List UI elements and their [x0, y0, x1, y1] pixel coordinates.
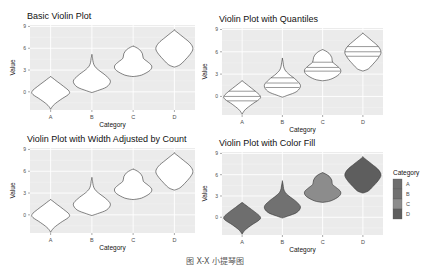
x-axis-label: Category — [99, 244, 126, 252]
legend-swatch-C — [393, 199, 402, 209]
panel-basic-violin: Basic Violin Plot0369ABCDCategoryValue — [9, 11, 195, 129]
y-tick-label: 3 — [215, 71, 218, 77]
x-tick-label: B — [281, 239, 285, 245]
legend-label: B — [406, 191, 410, 197]
y-tick-label: 3 — [215, 193, 218, 199]
x-tick-label: D — [361, 239, 365, 245]
violin-figure: Basic Violin Plot0369ABCDCategoryValue V… — [0, 0, 430, 268]
legend-swatch-D — [393, 209, 402, 219]
x-tick-label: D — [172, 114, 176, 120]
figure-caption: 图 X-X 小提琴图 — [0, 255, 430, 266]
x-axis-label: Category — [289, 126, 316, 134]
panel-title: Violin Plot with Quantiles — [219, 14, 318, 24]
y-tick-label: 9 — [215, 26, 218, 32]
y-tick-label: 6 — [215, 49, 218, 55]
panel-title: Violin Plot with Width Adjusted by Count — [27, 134, 187, 144]
x-tick-label: B — [281, 119, 285, 125]
legend-label: A — [406, 181, 410, 187]
x-tick-label: C — [131, 237, 135, 243]
y-axis-label: Value — [9, 182, 16, 199]
panel-violin-color-fill: Violin Plot with Color Fill0369ABCDCateg… — [201, 138, 383, 254]
x-tick-label: D — [172, 237, 176, 243]
y-tick-label: 0 — [23, 212, 26, 218]
panel-violin-width-count: Violin Plot with Width Adjusted by Count… — [9, 134, 195, 252]
x-tick-label: C — [131, 114, 135, 120]
panel-title: Violin Plot with Color Fill — [219, 138, 315, 148]
legend-title: Category — [393, 169, 420, 177]
legend-swatch-B — [393, 189, 402, 199]
y-tick-label: 6 — [23, 168, 26, 174]
y-tick-label: 3 — [23, 67, 26, 73]
y-tick-label: 3 — [23, 190, 26, 196]
panel-title: Basic Violin Plot — [27, 11, 92, 21]
y-tick-label: 6 — [23, 45, 26, 51]
x-tick-label: B — [90, 114, 94, 120]
legend-label: D — [406, 211, 410, 217]
legend-label: C — [406, 201, 410, 207]
y-tick-label: 6 — [215, 172, 218, 178]
panel-violin-quantiles: Violin Plot with Quantiles0369ABCDCatego… — [201, 14, 383, 134]
x-tick-label: B — [90, 237, 94, 243]
x-tick-label: A — [240, 119, 244, 125]
x-axis-label: Category — [289, 246, 316, 254]
y-axis-label: Value — [201, 63, 208, 80]
y-axis-label: Value — [201, 185, 208, 202]
y-tick-label: 0 — [215, 214, 218, 220]
x-tick-label: D — [361, 119, 365, 125]
x-axis-label: Category — [99, 121, 126, 129]
x-tick-label: A — [240, 239, 244, 245]
y-tick-label: 9 — [23, 23, 26, 29]
legend-swatch-A — [393, 179, 402, 189]
y-axis-label: Value — [9, 59, 16, 76]
y-tick-label: 9 — [215, 150, 218, 156]
x-tick-label: C — [321, 119, 325, 125]
x-tick-label: A — [49, 114, 53, 120]
y-tick-label: 9 — [23, 146, 26, 152]
legend: CategoryABCD — [393, 169, 420, 219]
y-tick-label: 0 — [215, 93, 218, 99]
y-tick-label: 0 — [23, 89, 26, 95]
x-tick-label: C — [321, 239, 325, 245]
x-tick-label: A — [49, 237, 53, 243]
